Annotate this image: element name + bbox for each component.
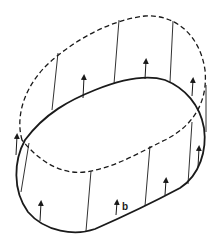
top-dashed-loop xyxy=(20,16,206,173)
bottom-solid-loop xyxy=(16,78,204,233)
arrow-icon xyxy=(40,203,41,221)
generator-line xyxy=(52,53,58,110)
arrow-icon xyxy=(116,202,117,215)
generator-line xyxy=(86,171,91,231)
generator-line xyxy=(21,143,29,192)
generator-line xyxy=(188,122,192,184)
arrow-icon xyxy=(16,136,17,155)
arrow-icon xyxy=(192,80,193,96)
generator-lines xyxy=(21,20,206,231)
surface-diagram: b xyxy=(0,0,217,245)
generator-line xyxy=(114,20,119,84)
arrow-icon xyxy=(165,180,166,195)
generator-line xyxy=(145,146,150,206)
label-b: b xyxy=(122,201,128,212)
generator-line xyxy=(170,21,173,82)
arrow-icon xyxy=(145,61,146,79)
